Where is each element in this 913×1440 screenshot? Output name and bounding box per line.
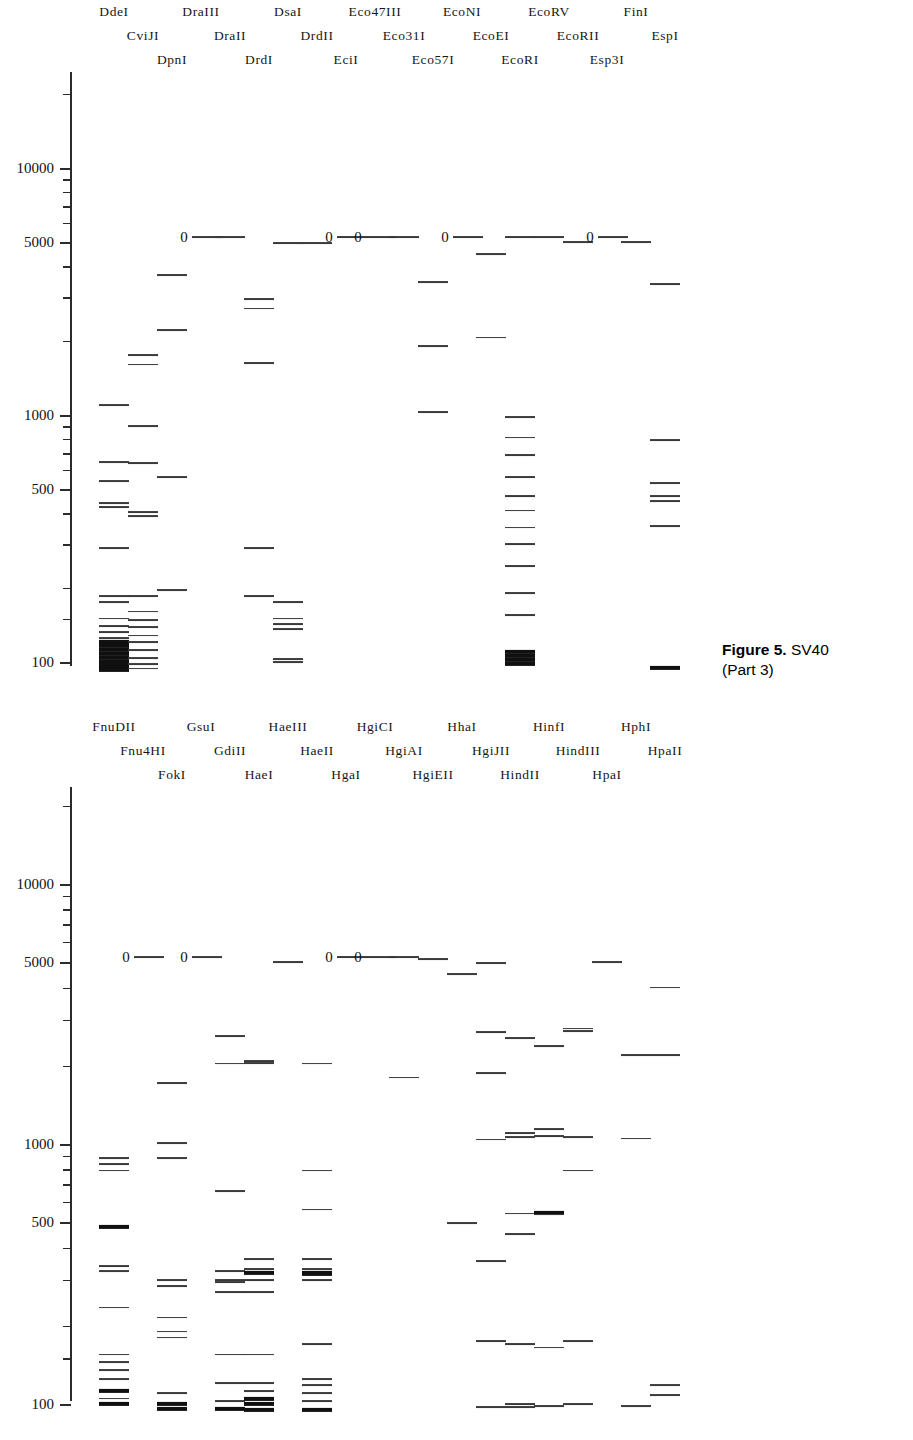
axis-tick-major [60,242,71,244]
gel-band [128,425,158,427]
enzyme-label-haeiii: HaeIII [269,715,308,739]
axis-tick-major [60,1404,71,1406]
gel-band [505,543,535,545]
enzyme-label-hgiai: HgiAI [385,739,423,763]
axis-tick-minor [63,206,71,207]
enzyme-label-draii: DraII [214,24,246,48]
enzyme-label-ecori: EcoRI [501,48,539,72]
enzyme-label-hgieii: HgiEII [412,763,453,787]
uncut-zero-marker: 0 [441,229,449,246]
gel-band [621,1138,651,1140]
gel-band [534,1135,564,1137]
gel-band [215,1407,245,1411]
enzyme-label-fini: FinI [624,0,649,24]
gel-band [505,1406,535,1408]
axis-tick-minor [63,1202,71,1203]
gel-band [505,416,535,418]
axis-tick-label: 10000 [17,160,61,177]
gel-band [650,439,680,441]
axis-tick-minor [63,223,71,224]
gel-band [157,1142,187,1144]
enzyme-label-haei: HaeI [245,763,274,787]
gel-band [157,329,187,331]
gel-band [505,510,535,512]
gel-band [128,649,158,651]
enzyme-row-top: FnuDIIGsuIHaeIIIHgiCIHhaIHinfIHphI [0,715,913,739]
caption-part: (Part 3) [722,660,913,680]
gel-plot-part3: 100005000100050010000000 [0,72,913,692]
gel-band [157,1157,187,1159]
gel-band [99,1157,129,1159]
axis-tick-minor [63,1248,71,1249]
gel-band [505,437,535,439]
axis-tick-minor [63,1326,71,1327]
gel-band [215,1400,245,1402]
gel-band [650,495,680,497]
gel-band [244,595,274,597]
gel-band [128,515,158,517]
axis-tick-minor [63,297,71,298]
axis-tick-minor [63,619,71,620]
gel-band [128,641,158,643]
uncut-zero-marker: 0 [586,229,594,246]
axis-tick-minor [63,192,71,193]
gel-band [505,1343,535,1345]
gel-band [273,623,303,625]
gel-band [99,1361,129,1363]
y-axis-line [70,72,72,666]
axis-tick-label: 10000 [17,876,61,893]
axis-tick-label: 5000 [24,234,60,251]
gel-band [505,236,535,238]
enzyme-label-hgai: HgaI [331,763,360,787]
gel-band [244,1382,274,1384]
gel-band [563,1403,593,1405]
enzyme-label-esp3i: Esp3I [590,48,625,72]
gel-band [99,668,129,672]
axis-tick-minor [63,1280,71,1281]
enzyme-label-foki: FokI [158,763,186,787]
gel-band [157,1402,187,1406]
gel-band [244,1279,274,1281]
gel-band [302,1378,332,1380]
gel-band [244,1354,274,1356]
enzyme-label-gdiii: GdiII [214,739,246,763]
gel-band [273,618,303,620]
gel-band [157,1331,187,1333]
gel-band [215,1382,245,1384]
enzyme-label-econi: EcoNI [443,0,481,24]
axis-tick-major [60,489,71,491]
gel-band [302,1268,332,1270]
enzyme-label-ecorii: EcoRII [557,24,600,48]
gel-band [505,1132,535,1134]
figure-caption-part3: Figure 5. SV40 (Part 3) [722,640,913,680]
gel-band [650,1394,680,1396]
gel-band [99,502,129,504]
enzyme-label-hpaii: HpaII [648,739,682,763]
enzyme-label-ecoei: EcoEI [473,24,510,48]
enzyme-label-eco47iii: Eco47III [349,0,402,24]
gel-band [215,1190,245,1192]
gel-band [215,1063,245,1065]
gel-band [453,236,483,238]
gel-band [302,1408,332,1412]
caption-rest: SV40 [787,641,829,658]
gel-band [302,1343,332,1345]
gel-panel-part3: DdeIDraIIIDsaIEco47IIIEcoNIEcoRVFinI Cvi… [0,0,913,700]
enzyme-label-espi: EspI [651,24,678,48]
gel-band [244,1390,274,1392]
gel-band [621,241,651,243]
gel-band [157,589,187,591]
gel-band [128,611,158,613]
gel-band [99,1307,129,1309]
uncut-zero-marker: 0 [354,229,362,246]
axis-tick-major [60,1222,71,1224]
gel-band [99,1265,129,1267]
gel-band [476,1340,506,1342]
gel-band [99,1225,129,1229]
gel-band [598,236,628,238]
gel-band [418,345,448,347]
gel-band [99,1402,129,1406]
gel-band [534,1214,564,1216]
gel-band [505,1213,535,1215]
enzyme-label-eco31i: Eco31I [383,24,426,48]
